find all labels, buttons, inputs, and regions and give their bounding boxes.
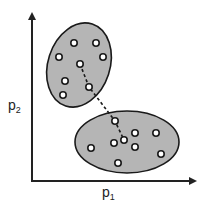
data-point [86, 84, 92, 90]
data-point [71, 40, 77, 46]
data-point [111, 140, 117, 146]
data-point [60, 92, 66, 98]
data-point [77, 61, 83, 67]
plot-area [0, 0, 208, 209]
data-point [132, 130, 138, 136]
x-axis-label-subscript: 1 [110, 192, 115, 202]
data-point [93, 40, 99, 46]
y-axis-label: p2 [8, 98, 21, 115]
cluster-diagram: p2 p1 [0, 0, 208, 209]
data-point [62, 78, 68, 84]
data-point [112, 118, 118, 124]
data-point [132, 144, 138, 150]
data-point [56, 54, 62, 60]
data-point [115, 160, 121, 166]
x-axis-label: p1 [102, 185, 115, 202]
data-point [153, 130, 159, 136]
y-axis-label-subscript: 2 [16, 105, 21, 115]
data-point [158, 151, 164, 157]
data-point [121, 137, 127, 143]
data-point [88, 145, 94, 151]
x-axis-label-text: p [102, 184, 110, 200]
y-axis-label-text: p [8, 97, 16, 113]
clusters [36, 15, 179, 173]
data-point [100, 54, 106, 60]
